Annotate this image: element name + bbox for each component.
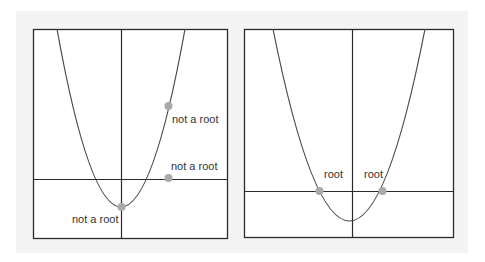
label-not-a-root-axis: not a root [171, 160, 217, 172]
left-point-vertex [118, 203, 126, 211]
label-not-a-root-vertex: not a root [72, 213, 118, 225]
right-root-right [379, 187, 387, 195]
parabola-roots-diagram: not a root not a root not a root root ro… [0, 0, 485, 262]
left-point-on-curve [165, 102, 173, 110]
label-root-right: root [364, 168, 383, 180]
label-root-left: root [324, 168, 343, 180]
right-panel: root root [245, 29, 454, 238]
left-point-on-axis [165, 174, 173, 182]
right-root-left [316, 187, 324, 195]
right-panel-frame [245, 30, 454, 238]
left-panel: not a root not a root not a root [34, 29, 228, 239]
label-not-a-root-curve: not a root [172, 113, 218, 125]
